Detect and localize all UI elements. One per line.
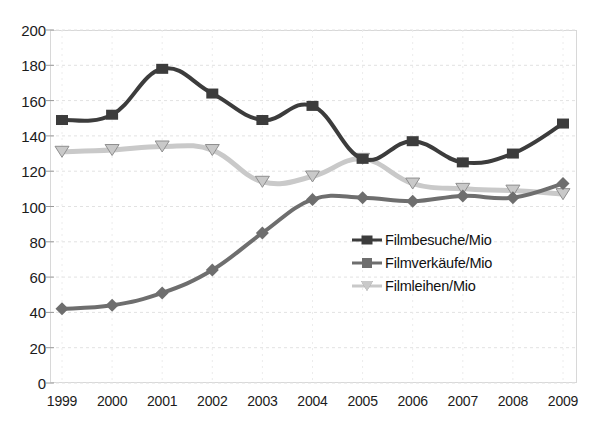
legend-item[interactable]: Filmbesuche/Mio [352, 229, 492, 250]
legend-marker-square-icon [352, 233, 382, 247]
chart-legend: Filmbesuche/MioFilmverkäufe/MioFilmleihe… [352, 229, 492, 296]
legend-label: Filmleihen/Mio [385, 278, 476, 294]
x-axis-tick-label: 2004 [297, 393, 327, 409]
legend-marker-diamond-icon [352, 256, 382, 270]
x-axis-tick-label: 2002 [197, 393, 227, 409]
x-axis-tick-labels: 1999200020012002200320042005200620072008… [0, 0, 597, 426]
legend-item[interactable]: Filmleihen/Mio [352, 275, 492, 296]
x-axis-tick-label: 2003 [247, 393, 277, 409]
legend-symbol-diamond-icon [362, 258, 372, 268]
x-axis-tick-label: 2000 [97, 393, 127, 409]
legend-symbol-triangle-down-icon [361, 281, 373, 291]
legend-item[interactable]: Filmverkäufe/Mio [352, 252, 492, 273]
legend-symbol-square-icon [362, 235, 373, 244]
legend-marker-triangle-down-icon [352, 279, 382, 293]
x-axis-tick-label: 2001 [147, 393, 177, 409]
legend-label: Filmverkäufe/Mio [385, 255, 492, 271]
legend-label: Filmbesuche/Mio [385, 232, 492, 248]
x-axis-tick-label: 1999 [47, 393, 77, 409]
line-chart: 020406080100120140160180200 199920002001… [0, 0, 597, 426]
x-axis-tick-label: 2008 [498, 393, 528, 409]
x-axis-tick-label: 2009 [548, 393, 578, 409]
x-axis-tick-label: 2007 [448, 393, 478, 409]
x-axis-tick-label: 2006 [398, 393, 428, 409]
x-axis-tick-label: 2005 [347, 393, 377, 409]
